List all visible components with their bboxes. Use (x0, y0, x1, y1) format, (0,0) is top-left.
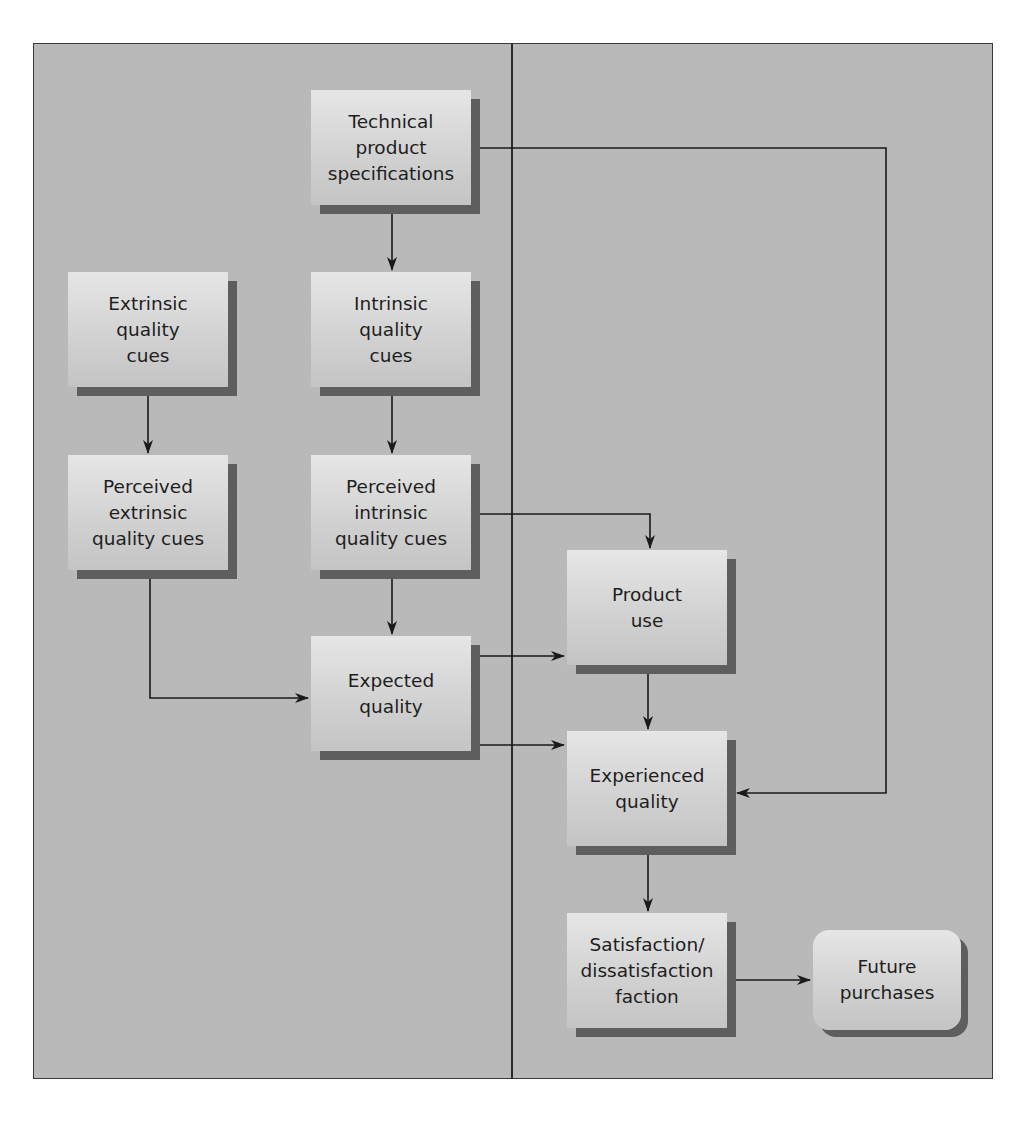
node-perceived-extrinsic-quality-cues: Perceived extrinsic quality cues (68, 455, 228, 570)
node-label: Experienced quality (590, 763, 705, 815)
node-label: Extrinsic quality cues (108, 291, 187, 369)
node-label: Future purchases (840, 954, 935, 1006)
node-future-purchases: Future purchases (813, 930, 961, 1030)
node-perceived-intrinsic-quality-cues: Perceived intrinsic quality cues (311, 455, 471, 570)
node-label: Expected quality (348, 668, 434, 720)
node-intrinsic-quality-cues: Intrinsic quality cues (311, 272, 471, 387)
node-label: Intrinsic quality cues (354, 291, 428, 369)
node-label: Perceived extrinsic quality cues (92, 474, 204, 552)
node-experienced-quality: Experienced quality (567, 731, 727, 846)
panel-divider (511, 43, 513, 1079)
node-label: Technical product specifications (328, 109, 454, 187)
node-label: Satisfaction/ dissatisfaction faction (581, 932, 714, 1010)
node-extrinsic-quality-cues: Extrinsic quality cues (68, 272, 228, 387)
node-expected-quality: Expected quality (311, 636, 471, 751)
node-technical-product-specifications: Technical product specifications (311, 90, 471, 205)
node-label: Product use (612, 582, 682, 634)
node-label: Perceived intrinsic quality cues (335, 474, 447, 552)
node-satisfaction-dissatisfaction: Satisfaction/ dissatisfaction faction (567, 913, 727, 1028)
node-product-use: Product use (567, 550, 727, 665)
